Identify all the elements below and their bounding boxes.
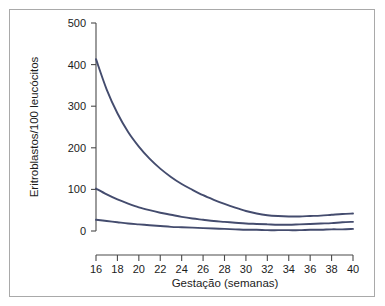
x-axis-title: Gestação (semanas) [172,277,279,289]
x-tick-label: 28 [218,263,230,275]
figure-frame: 0100200300400500 16182022242628303234363… [9,9,375,297]
y-tick-label: 100 [68,183,86,195]
x-tick-label: 34 [283,263,295,275]
x-tick-label: 30 [240,263,252,275]
x-tick-label: 22 [154,263,166,275]
y-tick-label: 0 [80,225,86,237]
line-chart: 0100200300400500 16182022242628303234363… [10,10,374,296]
x-tick-label: 40 [347,263,359,275]
x-tick-label: 16 [90,263,102,275]
y-axis-ticks: 0100200300400500 [68,17,96,237]
chart-curves [96,59,353,230]
y-tick-label: 200 [68,142,86,154]
y-tick-label: 400 [68,59,86,71]
curve-upper [96,59,353,216]
y-tick-label: 300 [68,100,86,112]
x-tick-label: 32 [261,263,273,275]
x-tick-label: 24 [176,263,188,275]
x-tick-label: 18 [111,263,123,275]
y-tick-label: 500 [68,17,86,29]
x-tick-label: 36 [304,263,316,275]
x-axis-ticks: 16182022242628303234363840 [90,255,359,275]
x-tick-label: 20 [133,263,145,275]
x-tick-label: 38 [325,263,337,275]
curve-median [96,189,353,225]
y-axis-title: Eritroblastos/100 leucócitos [28,56,40,197]
x-tick-label: 26 [197,263,209,275]
